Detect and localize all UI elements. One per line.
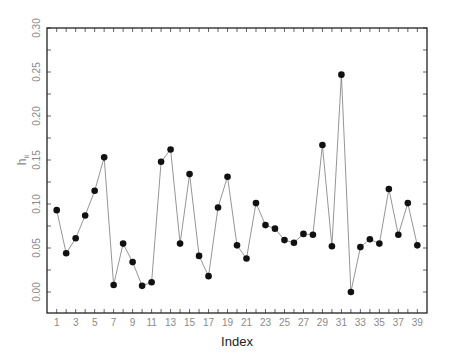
data-point (329, 243, 336, 250)
x-tick-label: 21 (241, 317, 253, 328)
data-point (291, 239, 298, 246)
data-point (101, 154, 108, 161)
data-point (386, 186, 393, 193)
data-point (281, 237, 288, 244)
data-point (53, 207, 60, 214)
data-point (319, 142, 326, 149)
leverage-index-plot: 0.000.050.100.150.200.250.30 13579111315… (0, 0, 449, 364)
x-tick-label: 9 (130, 317, 136, 328)
data-point (177, 240, 184, 247)
y-axis-title-sub: ii (22, 155, 31, 159)
x-tick-label: 39 (412, 317, 424, 328)
data-point (186, 171, 193, 178)
x-tick-label: 15 (184, 317, 196, 328)
y-tick-label: 0.05 (31, 238, 42, 258)
data-point (262, 222, 269, 229)
data-point (110, 282, 117, 289)
y-tick-label: 0.10 (31, 194, 42, 214)
data-point (376, 240, 383, 247)
x-tick-label: 35 (374, 317, 386, 328)
x-tick-label: 1 (54, 317, 60, 328)
x-axis-title: Index (221, 334, 253, 349)
data-point (72, 235, 79, 242)
x-tick-label: 5 (92, 317, 98, 328)
x-tick-label: 3 (73, 317, 79, 328)
x-tick-labels: 13579111315171921232527293133353739 (54, 317, 423, 328)
data-line (57, 75, 418, 292)
y-tick-labels: 0.000.050.100.150.200.250.30 (31, 18, 42, 302)
x-tick-label: 23 (260, 317, 272, 328)
data-point (367, 236, 374, 243)
data-point (158, 158, 165, 165)
y-tick-label: 0.25 (31, 62, 42, 82)
data-point (91, 188, 98, 195)
x-tick-label: 7 (111, 317, 117, 328)
data-point (82, 212, 89, 219)
data-point (129, 259, 136, 266)
x-tick-label: 13 (165, 317, 177, 328)
x-tick-label: 37 (393, 317, 405, 328)
data-point (414, 242, 421, 249)
x-tick-label: 33 (355, 317, 367, 328)
data-markers (53, 71, 420, 295)
data-point (253, 200, 260, 207)
data-point (243, 255, 250, 262)
data-point (167, 146, 174, 153)
data-point (348, 289, 355, 296)
y-tick-label: 0.20 (31, 106, 42, 126)
data-point (120, 240, 127, 247)
x-tick-label: 27 (298, 317, 310, 328)
y-tick-label: 0.15 (31, 150, 42, 170)
data-point (310, 232, 317, 239)
y-axis-title-main: h (15, 158, 29, 165)
data-point (148, 279, 155, 286)
x-tick-label: 19 (222, 317, 234, 328)
data-point (196, 253, 203, 260)
y-tick-label: 0.00 (31, 282, 42, 302)
data-point (224, 173, 231, 180)
axis-ticks (47, 28, 427, 313)
data-point (139, 283, 146, 290)
data-point (405, 200, 412, 207)
x-tick-label: 17 (203, 317, 215, 328)
data-point (357, 244, 364, 251)
data-point (272, 225, 279, 232)
data-point (234, 242, 241, 249)
x-tick-label: 29 (317, 317, 329, 328)
data-point (205, 273, 212, 280)
data-point (338, 71, 345, 78)
data-point (63, 250, 70, 257)
data-point (300, 231, 307, 238)
data-point (215, 204, 222, 211)
y-axis-title: hii (15, 155, 31, 165)
x-tick-label: 31 (336, 317, 348, 328)
x-tick-label: 25 (279, 317, 291, 328)
y-tick-label: 0.30 (31, 18, 42, 38)
x-tick-label: 11 (146, 317, 157, 328)
data-point (395, 232, 402, 239)
plot-frame (47, 28, 427, 313)
